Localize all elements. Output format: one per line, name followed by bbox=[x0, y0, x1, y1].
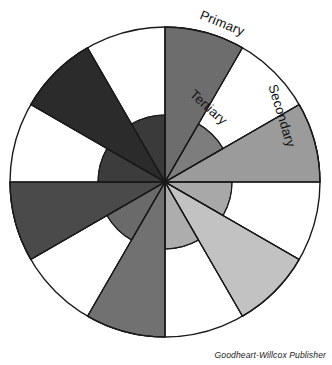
wheel-wedge-10-secondary[interactable] bbox=[31, 48, 165, 182]
color-wheel-figure: PrimaryTertiarySecondary Goodheart-Willc… bbox=[0, 0, 332, 365]
wheel-wedge-4-primary[interactable] bbox=[165, 182, 299, 316]
color-wheel-svg: PrimaryTertiarySecondary bbox=[0, 0, 332, 365]
publisher-credit: Goodheart-Willcox Publisher bbox=[214, 350, 326, 360]
